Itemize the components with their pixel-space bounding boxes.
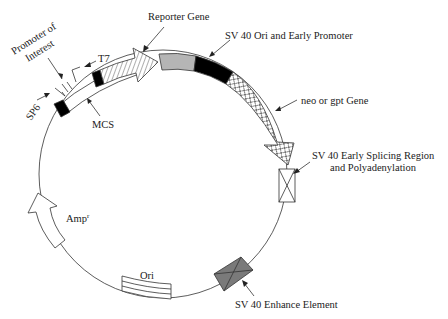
label-sv40-ori-promoter: SV 40 Ori and Early Promoter xyxy=(225,30,353,41)
plasmid-map: Promoter of Interest T7 SP6 MCS Reporter… xyxy=(0,0,448,319)
label-amp: Ampr xyxy=(66,212,90,224)
sv40-splicing-polya-box xyxy=(279,169,295,202)
sv40-ori-block xyxy=(159,53,196,71)
neo-gpt-gene-arrow xyxy=(226,72,294,165)
label-sv40-splicing-2: and Polyadenylation xyxy=(330,162,417,173)
sv40-enhancer-block xyxy=(214,257,253,291)
label-t7: T7 xyxy=(98,53,110,64)
label-ori: Ori xyxy=(140,270,154,281)
label-sv40-enhancer: SV 40 Enhance Element xyxy=(235,299,338,310)
label-sp6: SP6 xyxy=(24,102,43,122)
sv40-early-promoter-block xyxy=(194,56,233,84)
label-mcs: MCS xyxy=(92,119,114,130)
amp-resistance-arrow xyxy=(28,193,65,248)
label-sv40-splicing-1: SV 40 Early Splicing Region xyxy=(312,150,435,161)
label-reporter-gene: Reporter Gene xyxy=(148,11,210,22)
label-neo-gpt-gene: neo or gpt Gene xyxy=(301,95,369,106)
